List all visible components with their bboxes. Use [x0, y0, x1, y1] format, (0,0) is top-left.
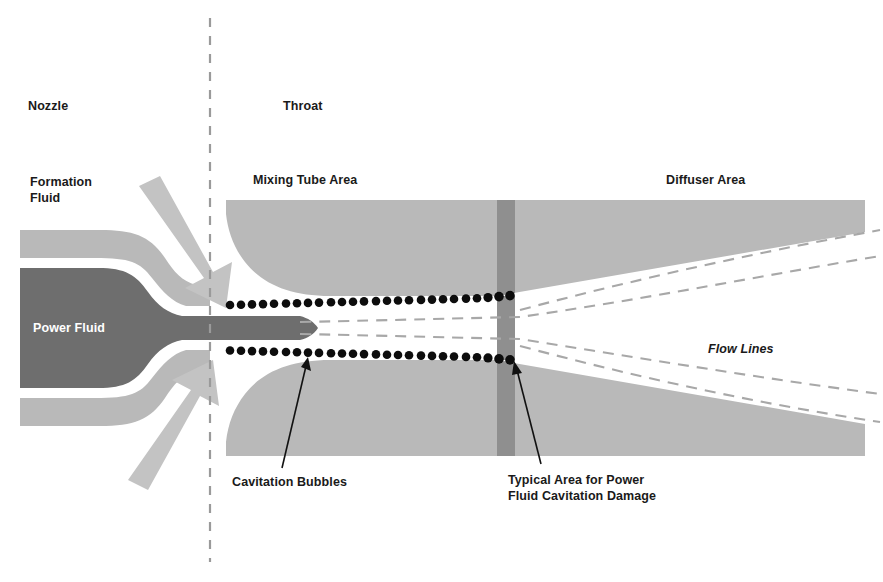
bubble: [226, 346, 235, 355]
bubble: [473, 353, 482, 362]
bubble: [473, 294, 482, 303]
bubble: [405, 351, 414, 360]
bubble: [338, 298, 347, 307]
formation-fluid-label: Formation Fluid: [30, 174, 92, 206]
bubble: [315, 298, 324, 307]
cavitation-damage-label: Typical Area for Power Fluid Cavitation …: [508, 472, 656, 504]
bubble: [293, 299, 302, 308]
bubble: [494, 354, 504, 364]
bubble: [405, 296, 414, 305]
bubble: [304, 299, 313, 308]
mixing-tube-wall-upper: [226, 200, 497, 296]
bubble: [270, 347, 279, 356]
bubble: [450, 295, 459, 304]
bubble: [360, 350, 369, 359]
nozzle-section-label: Nozzle: [28, 98, 68, 114]
bubble: [293, 348, 302, 357]
bubble: [248, 347, 257, 356]
formation-fluid-inflow-arrow-upper: [139, 176, 232, 308]
bubble: [259, 300, 268, 309]
bubble: [462, 294, 471, 303]
bubble: [237, 347, 246, 356]
bubble: [428, 295, 437, 304]
bubble: [315, 349, 324, 358]
diagram-canvas: [0, 0, 883, 582]
bubble: [349, 297, 358, 306]
diffuser-area-label: Diffuser Area: [666, 172, 745, 188]
diffuser-wall-lower: [497, 360, 865, 456]
bubble: [483, 353, 492, 362]
bubble: [483, 293, 492, 302]
bubble: [394, 351, 403, 360]
bubble: [383, 350, 392, 359]
cavitation-bubbles-label: Cavitation Bubbles: [232, 474, 347, 490]
bubble: [282, 348, 291, 357]
flow-lines-label: Flow Lines: [708, 341, 774, 357]
bubble: [327, 349, 336, 358]
bubble: [226, 301, 235, 310]
bubble: [282, 299, 291, 308]
bubble: [237, 300, 246, 309]
bubble: [439, 295, 448, 304]
bubble: [248, 300, 257, 309]
bubble: [338, 349, 347, 358]
jet-pump-cavitation-diagram: Nozzle Throat Formation Fluid Power Flui…: [0, 0, 883, 582]
bubble: [439, 352, 448, 361]
bubble: [349, 350, 358, 359]
bubble: [417, 351, 426, 360]
mixing-tube-wall-lower: [226, 360, 497, 456]
bubble: [505, 291, 515, 301]
diffuser-body: [497, 200, 865, 456]
bubble: [270, 300, 279, 309]
bubble: [372, 297, 381, 306]
bubble: [360, 297, 369, 306]
bubble: [394, 296, 403, 305]
damage-band-core: [497, 296, 515, 360]
cavitation-damage-band: [497, 200, 515, 456]
diffuser-wall-upper: [497, 200, 865, 296]
damage-band-upper: [497, 200, 515, 296]
formation-fluid-inflow-arrow-lower: [128, 360, 219, 490]
bubble: [372, 350, 381, 359]
bubble: [494, 292, 504, 302]
bubble: [327, 298, 336, 307]
bubble: [450, 352, 459, 361]
bubble: [428, 352, 437, 361]
bubble: [383, 297, 392, 306]
bubble: [417, 296, 426, 305]
mixing-tube-area-label: Mixing Tube Area: [253, 172, 357, 188]
bubble: [505, 355, 515, 365]
bubble: [259, 347, 268, 356]
bubble: [462, 353, 471, 362]
power-fluid-label: Power Fluid: [33, 320, 105, 336]
throat-section-label: Throat: [283, 98, 323, 114]
bubble: [304, 348, 313, 357]
